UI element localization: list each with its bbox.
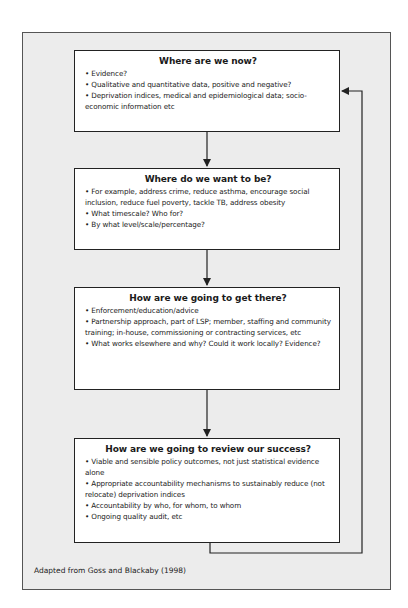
bullet-item: Viable and sensible policy outcomes, not…: [85, 456, 331, 478]
box-title: How are we going to review our success?: [85, 444, 331, 454]
source-caption: Adapted from Goss and Blackaby (1998): [34, 566, 186, 575]
bullet-item: Evidence?: [85, 68, 331, 79]
bullet-item: Deprivation indices, medical and epidemi…: [85, 90, 331, 112]
box-title: How are we going to get there?: [85, 293, 331, 303]
box-title: Where do we want to be?: [85, 174, 331, 184]
bullet-item: What timescale? Who for?: [85, 208, 331, 219]
bullet-item: Enforcement/education/advice: [85, 305, 331, 316]
box-where-do-we-want-to-be: Where do we want to be? For example, add…: [74, 168, 340, 250]
bullet-item: Partnership approach, part of LSP; membe…: [85, 316, 331, 338]
box-review-success: How are we going to review our success? …: [74, 438, 340, 543]
box-how-get-there: How are we going to get there? Enforceme…: [74, 287, 340, 390]
bullet-item: Accountability by who, for whom, to whom: [85, 500, 331, 511]
bullet-item: For example, address crime, reduce asthm…: [85, 186, 331, 208]
box-where-are-we-now: Where are we now? Evidence? Qualitative …: [74, 50, 340, 132]
bullet-item: What works elsewhere and why? Could it w…: [85, 338, 331, 349]
bullet-item: Appropriate accountability mechanisms to…: [85, 478, 331, 500]
box-title: Where are we now?: [85, 56, 331, 66]
bullet-item: By what level/scale/percentage?: [85, 219, 331, 230]
bullet-item: Qualitative and quantitative data, posit…: [85, 79, 331, 90]
bullet-item: Ongoing quality audit, etc: [85, 511, 331, 522]
